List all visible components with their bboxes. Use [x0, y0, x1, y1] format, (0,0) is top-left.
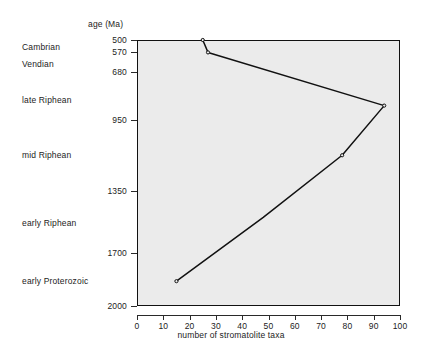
x-tick-mark: [374, 315, 375, 320]
x-tick-mark: [295, 315, 296, 320]
data-point-marker: [383, 104, 386, 107]
data-series-line: [0, 0, 422, 349]
x-tick-mark: [347, 315, 348, 320]
data-point-marker: [341, 154, 344, 157]
x-tick-mark: [163, 315, 164, 320]
x-axis-title: number of stromatolite taxa: [0, 330, 422, 340]
x-tick-mark: [400, 315, 401, 320]
data-point-marker: [206, 51, 209, 54]
x-tick-mark: [269, 315, 270, 320]
x-tick-mark: [190, 315, 191, 320]
x-tick-mark: [137, 315, 138, 320]
x-tick-mark: [321, 315, 322, 320]
x-tick-mark: [242, 315, 243, 320]
stromatolite-diversity-chart: age (Ma) CambrianVendianlate Ripheanmid …: [0, 0, 422, 349]
data-point-marker: [175, 280, 178, 283]
x-tick-mark: [216, 315, 217, 320]
series-polyline: [176, 40, 384, 281]
data-point-marker: [201, 38, 204, 41]
